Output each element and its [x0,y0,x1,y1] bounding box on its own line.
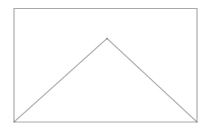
apex-vertex [106,38,108,40]
outer-rectangle [14,9,197,123]
bottom-left-vertex [14,121,16,123]
line-drawing-svg [0,0,216,134]
figure-canvas [0,0,216,134]
bottom-right-vertex [196,121,198,123]
triangle-left-leg [14,39,107,123]
triangle-right-leg [107,39,197,123]
